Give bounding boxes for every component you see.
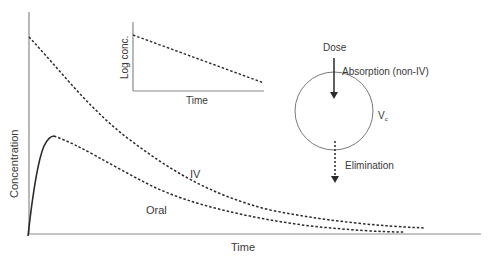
iv-label: IV bbox=[190, 168, 201, 180]
oral-curve-elimination bbox=[54, 136, 405, 232]
volume-label: Vc bbox=[378, 110, 388, 122]
compartment-model: Dose Absorption (non-IV) Vc Elimination bbox=[295, 42, 429, 183]
inset-x-label: Time bbox=[186, 95, 208, 106]
absorption-arrow-head-icon bbox=[330, 92, 338, 99]
absorption-label: Absorption (non-IV) bbox=[342, 66, 429, 77]
inset-log-line bbox=[133, 35, 264, 83]
elimination-arrow-head-icon bbox=[331, 176, 339, 183]
oral-curve-absorption bbox=[28, 136, 54, 236]
oral-label: Oral bbox=[146, 204, 167, 216]
main-y-label: Concentration bbox=[8, 130, 20, 199]
inset-y-label: Log conc. bbox=[119, 36, 130, 79]
dose-label: Dose bbox=[323, 42, 347, 53]
main-axes bbox=[29, 12, 481, 234]
inset-plot: Time Log conc. bbox=[119, 22, 264, 106]
pk-diagram: IV Oral Time Concentration Time Log conc… bbox=[0, 0, 490, 260]
main-x-label: Time bbox=[231, 241, 255, 253]
elimination-label: Elimination bbox=[345, 160, 394, 171]
